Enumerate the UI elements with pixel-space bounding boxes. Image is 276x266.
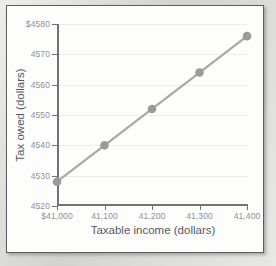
x-tick-label: 41,400 [234, 211, 261, 221]
x-tick-label: 41,300 [186, 211, 213, 221]
x-tick-label: 41,100 [91, 211, 118, 221]
data-series-layer [57, 24, 248, 206]
data-point-marker [243, 32, 252, 41]
y-tick-label: $4580 [26, 19, 50, 29]
y-axis-title: Tax owed (dollars) [13, 24, 27, 206]
chart-plot-area: 452045304540455045604570$4580 $41,00041,… [57, 24, 247, 206]
y-tick-label: 4560 [31, 80, 50, 90]
data-point-marker [148, 105, 157, 114]
chart-figure-frame: Tax owed (dollars) 452045304540455045604… [6, 5, 264, 253]
data-point-marker [100, 141, 109, 150]
data-point-marker [53, 177, 62, 186]
x-tick-label: 41,200 [139, 211, 166, 221]
y-tick-label: 4540 [31, 140, 50, 150]
y-tick-label: 4570 [31, 49, 50, 59]
data-point-marker [195, 68, 204, 77]
y-axis-title-text: Tax owed (dollars) [14, 68, 26, 161]
y-tick-label: 4520 [31, 201, 50, 211]
y-tick-label: 4530 [31, 171, 50, 181]
x-axis-title: Taxable income (dollars) [57, 224, 249, 236]
x-tick-label: $41,000 [41, 211, 72, 221]
x-axis-title-text: Taxable income (dollars) [91, 224, 216, 236]
chart-plot-wrapper: Tax owed (dollars) 452045304540455045604… [7, 6, 263, 252]
figure-screenshot: Tax owed (dollars) 452045304540455045604… [0, 0, 276, 266]
y-tick-label: 4550 [31, 110, 50, 120]
